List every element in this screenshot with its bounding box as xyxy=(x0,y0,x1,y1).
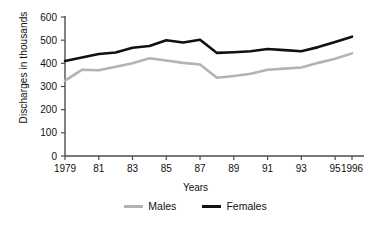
y-axis-tick-label: 600 xyxy=(40,12,57,23)
y-axis-tick-label: 400 xyxy=(40,58,57,69)
line-chart: Discharges in thousands 0100200300400500… xyxy=(0,0,391,228)
legend-item-males: Males xyxy=(124,200,176,212)
series-line-males xyxy=(65,53,352,80)
legend-swatch-males-icon xyxy=(124,205,143,208)
x-axis-tick-label: 1996 xyxy=(341,163,364,174)
x-axis-tick-label: 95 xyxy=(330,163,342,174)
x-axis-tick-label: 91 xyxy=(262,163,274,174)
legend-label-females: Females xyxy=(226,200,266,212)
y-axis-tick-label: 300 xyxy=(40,81,57,92)
x-axis-tick-label: 89 xyxy=(228,163,240,174)
y-axis-tick-label: 200 xyxy=(40,104,57,115)
legend-item-females: Females xyxy=(202,200,266,212)
x-axis-tick-label: 83 xyxy=(127,163,139,174)
x-axis-tick-label: 1979 xyxy=(54,163,77,174)
chart-legend: Males Females xyxy=(0,200,391,212)
chart-plot-area: 0100200300400500600 19798183858789919395… xyxy=(0,0,391,228)
legend-swatch-females-icon xyxy=(202,205,221,208)
x-axis-tick-label: 85 xyxy=(161,163,173,174)
y-axis-tick-label: 100 xyxy=(40,127,57,138)
legend-label-males: Males xyxy=(148,200,176,212)
x-axis-tick-label: 93 xyxy=(296,163,308,174)
series-line-females xyxy=(65,37,352,61)
x-axis-tick-label: 81 xyxy=(93,163,105,174)
x-axis-title: Years xyxy=(0,182,391,193)
y-axis-tick-group: 0100200300400500600 xyxy=(40,12,65,162)
y-axis-tick-label: 500 xyxy=(40,35,57,46)
y-axis-tick-label: 0 xyxy=(51,151,57,162)
x-axis-tick-group: 197981838587899193951996 xyxy=(54,156,364,174)
x-axis-tick-label: 87 xyxy=(194,163,206,174)
